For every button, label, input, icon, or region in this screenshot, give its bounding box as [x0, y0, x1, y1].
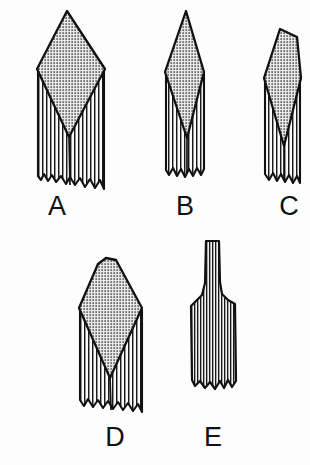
figure-a-median-ridge [69, 137, 70, 185]
figure-d-drawing [68, 254, 164, 422]
figure-a-label: A [40, 193, 74, 220]
figure-b [152, 8, 222, 198]
figure-d-label: D [98, 424, 132, 451]
figure-e-label: E [196, 424, 230, 451]
figure-a-drawing [14, 8, 122, 198]
figure-e-drawing [182, 238, 244, 418]
figure-c-drawing [256, 26, 310, 198]
figure-d [68, 254, 164, 422]
figure-c-label: C [272, 193, 306, 220]
figure-c [256, 26, 310, 198]
figure-b-drawing [152, 8, 222, 198]
figure-d-median-ridge [110, 378, 111, 410]
figure-a [14, 8, 122, 198]
figure-e [182, 238, 244, 418]
figure-e-body [191, 241, 236, 389]
figure-b-label: B [168, 193, 202, 220]
figure-plate: A B C D E [0, 0, 310, 465]
